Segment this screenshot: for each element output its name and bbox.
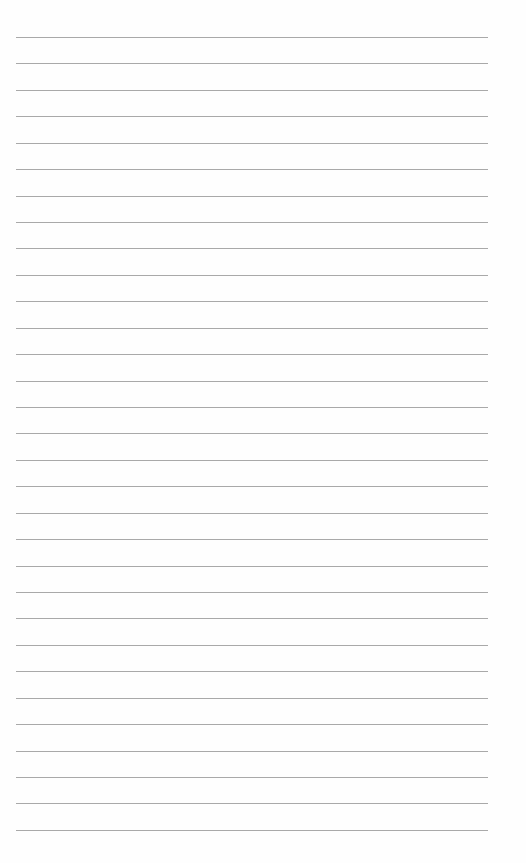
ruled-line	[16, 433, 488, 434]
lined-paper	[0, 0, 526, 863]
ruled-line	[16, 539, 488, 540]
ruled-line	[16, 37, 488, 38]
ruled-line	[16, 777, 488, 778]
ruled-line	[16, 460, 488, 461]
ruled-line	[16, 698, 488, 699]
ruled-line	[16, 751, 488, 752]
ruled-line	[16, 169, 488, 170]
ruled-line	[16, 592, 488, 593]
ruled-line	[16, 671, 488, 672]
ruled-line	[16, 328, 488, 329]
ruled-line	[16, 143, 488, 144]
ruled-line	[16, 566, 488, 567]
ruled-line	[16, 724, 488, 725]
ruled-line	[16, 275, 488, 276]
ruled-line	[16, 301, 488, 302]
ruled-line	[16, 63, 488, 64]
ruled-line	[16, 830, 488, 831]
ruled-line	[16, 116, 488, 117]
ruled-line	[16, 486, 488, 487]
ruled-line	[16, 803, 488, 804]
ruled-line	[16, 90, 488, 91]
ruled-line	[16, 248, 488, 249]
ruled-line	[16, 381, 488, 382]
ruled-line	[16, 618, 488, 619]
ruled-line	[16, 513, 488, 514]
ruled-line	[16, 196, 488, 197]
ruled-line	[16, 645, 488, 646]
ruled-line	[16, 222, 488, 223]
ruled-line	[16, 354, 488, 355]
ruled-line	[16, 407, 488, 408]
